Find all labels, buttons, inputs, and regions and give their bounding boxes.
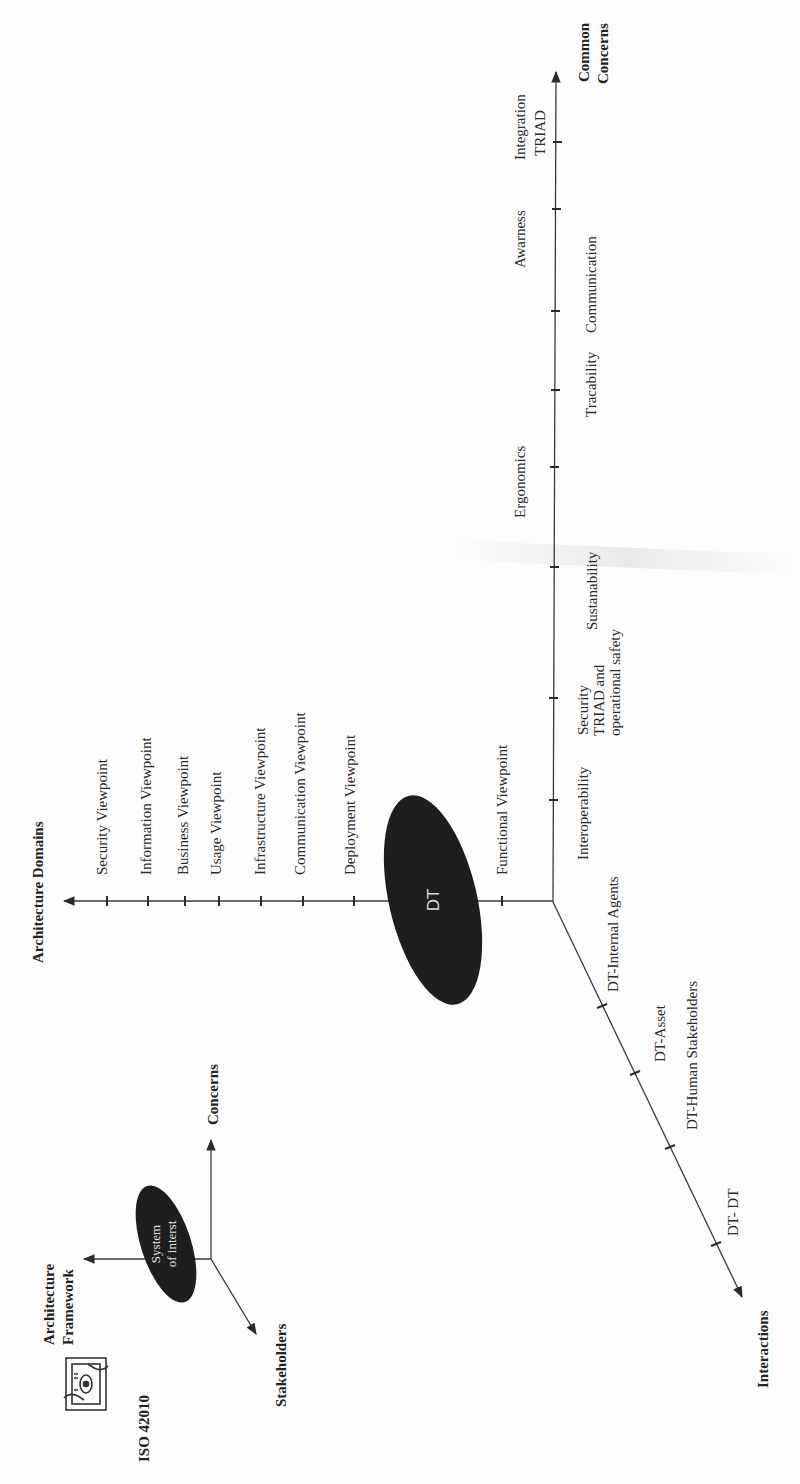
scan-glare [450, 540, 800, 575]
interaction-asset: DT-Asset [652, 1004, 668, 1062]
concern-tracability: Tracability [583, 351, 599, 417]
domain-infrastructure: Infrastructure Viewpoint [252, 727, 268, 875]
main-dt-group: Architecture Domains Security Viewpoint … [30, 22, 771, 1388]
concern-security-line3: operational safety [607, 628, 623, 736]
concern-security-line1: Security [575, 685, 591, 735]
concern-ergonomics: Ergonomics [512, 446, 528, 518]
interaction-human-stakeholders: DT-Human Stakeholders [684, 981, 700, 1130]
domain-security: Security Viewpoint [94, 758, 110, 875]
concern-interoperability: Interoperability [575, 766, 591, 860]
concern-awareness: Awarness [512, 210, 528, 268]
iso-stakeholders-label: Stakeholders [273, 1323, 289, 1407]
concern-integration-line1: Integration [512, 94, 528, 160]
system-of-interest-line2: of interst [164, 1220, 179, 1267]
domain-usage: Usage Viewpoint [208, 771, 224, 875]
interactions-title: Interactions [755, 1310, 771, 1388]
dt-label: DT [424, 889, 443, 912]
iso-framework-group: ISO 42010 System of interst Concerns Arc… [41, 1064, 289, 1462]
iso-standard-label: ISO 42010 [136, 1395, 152, 1462]
domain-information: Information Viewpoint [138, 737, 154, 875]
iso-framework-label-line2: Framework [60, 1269, 76, 1345]
diagram-svg: ISO 42010 System of interst Concerns Arc… [0, 0, 800, 1484]
domain-communication: Communication Viewpoint [292, 712, 308, 875]
concern-security-line2: TRIAD and [591, 664, 607, 736]
concern-integration-line2: TRIAD [532, 110, 548, 156]
interactions-axis [553, 902, 742, 1297]
interaction-internal-agents: DT-Internal Agents [605, 876, 621, 992]
system-of-interest-line1: System [148, 1225, 163, 1263]
domain-functional: Functional Viewpoint [494, 744, 510, 875]
domain-business: Business Viewpoint [175, 755, 191, 875]
common-concerns-title-line2: Concerns [595, 23, 611, 84]
iso-concerns-label: Concerns [205, 1064, 221, 1125]
common-concerns-title-line1: Common [576, 22, 592, 82]
eye-hands-frame-icon [64, 1358, 108, 1410]
iso-framework-label-line1: Architecture [41, 1264, 57, 1345]
diagram-canvas: ISO 42010 System of interst Concerns Arc… [0, 0, 800, 1484]
common-concerns-axis [553, 72, 556, 902]
interaction-dt-dt: DT- DT [725, 1189, 741, 1236]
iso-stakeholders-axis [211, 1259, 256, 1334]
architecture-domains-title: Architecture Domains [30, 821, 46, 963]
domain-deployment: Deployment Viewpoint [342, 734, 358, 875]
concern-communication: Communication [583, 236, 599, 333]
concern-sustainability: Sustanability [584, 551, 600, 630]
